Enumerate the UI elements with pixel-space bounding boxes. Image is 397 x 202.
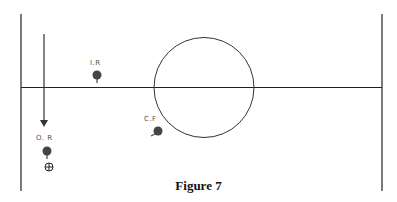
pitch-diagram: I.R C.F O. R — [0, 0, 397, 202]
figure-caption: Figure 7 — [0, 178, 397, 194]
player-inside-right: I.R — [90, 59, 102, 83]
player-outside-right: O. R — [36, 134, 53, 159]
arrow-head-icon — [40, 120, 48, 127]
player-label: C.F — [144, 115, 157, 123]
player-marker-icon — [93, 71, 102, 80]
player-centre-forward: C.F — [144, 115, 163, 136]
ball-marker — [45, 163, 53, 171]
player-marker-icon — [43, 147, 52, 156]
player-label: I.R — [90, 59, 101, 67]
run-arrow — [40, 34, 48, 127]
player-label: O. R — [36, 134, 53, 142]
